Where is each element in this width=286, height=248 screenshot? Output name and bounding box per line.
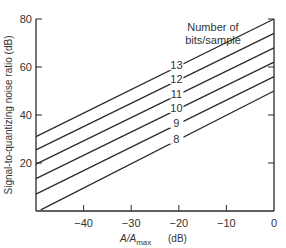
- x-axis-unit: (dB): [168, 233, 187, 244]
- x-tick-label: −20: [169, 217, 188, 229]
- x-tick-label: −10: [217, 217, 236, 229]
- axes: [36, 19, 274, 211]
- series-lines: [36, 19, 274, 210]
- curve-label-13: 13: [170, 59, 182, 71]
- y-tick-label: 20: [20, 157, 32, 169]
- series-line-9-bits: [36, 77, 274, 195]
- series-line-10-bits: [36, 62, 274, 178]
- x-tick-label: −40: [74, 217, 93, 229]
- legend-title-line2: bits/sample: [185, 34, 241, 46]
- curve-label-8: 8: [173, 133, 179, 145]
- y-tick-label: 80: [20, 13, 32, 25]
- curve-label-12: 12: [170, 73, 182, 85]
- series-line-12-bits: [36, 33, 274, 149]
- curve-label-11: 11: [171, 88, 182, 100]
- curve-label-10: 10: [170, 102, 182, 114]
- series-line-11-bits: [36, 48, 274, 164]
- snr-chart: 20406080−40−30−20−1001312111098Number of…: [0, 0, 286, 248]
- labels: 20406080−40−30−20−1001312111098Number of…: [3, 13, 277, 247]
- x-axis-title: A/Amax: [119, 233, 151, 247]
- y-tick-label: 60: [20, 61, 32, 73]
- x-tick-label: 0: [271, 217, 277, 229]
- series-line-8-bits: [41, 91, 274, 210]
- x-tick-label: −30: [122, 217, 141, 229]
- y-tick-label: 40: [20, 109, 32, 121]
- curve-label-9: 9: [173, 117, 179, 129]
- legend-title-line1: Number of: [187, 21, 239, 33]
- y-axis-title: Signal-to-quantizing noise ratio (dB): [3, 36, 14, 195]
